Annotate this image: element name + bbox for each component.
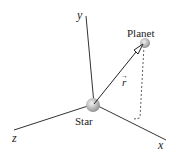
projection-foot-marker [134, 118, 140, 119]
x-axis-label: x [157, 138, 164, 152]
planet-label: Planet [127, 27, 155, 39]
position-vector-line [94, 52, 136, 104]
star-planet-position-diagram: y z x Planet Star r → [0, 0, 176, 156]
y-axis-label: y [76, 8, 83, 22]
star-label: Star [75, 115, 93, 127]
projection-dashed-line [140, 46, 144, 118]
vector-r-arrow-icon: → [121, 72, 128, 80]
x-axis [94, 104, 166, 140]
z-axis-label: z [11, 131, 17, 145]
star-sphere [86, 98, 100, 112]
y-axis [86, 16, 94, 104]
